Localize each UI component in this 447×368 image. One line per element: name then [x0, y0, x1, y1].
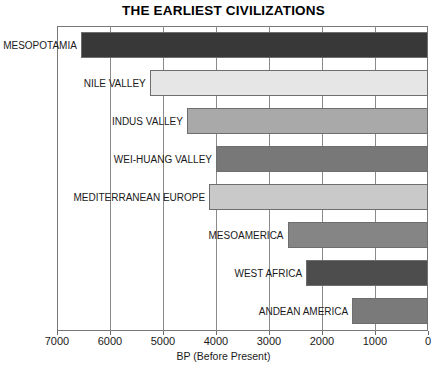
bar-label-andean-america: ANDEAN AMERICA [0, 306, 348, 317]
bar-indus-valley [187, 108, 428, 134]
x-tick-label-7000: 7000 [27, 335, 87, 347]
bar-label-mediterranean-europe: MEDITERRANEAN EUROPE [0, 192, 205, 203]
chart-container: THE EARLIEST CIVILIZATIONS 7000600050004… [0, 0, 447, 368]
bar-label-mesoamerica: MESOAMERICA [0, 230, 284, 241]
bar-west-africa [306, 260, 428, 286]
gridline-6000 [110, 26, 111, 331]
plot-frame-bottom-border [57, 330, 428, 331]
bar-label-mesopotamia: MESOPOTAMIA [0, 40, 77, 51]
x-tick-label-2000: 2000 [292, 335, 352, 347]
bar-mesopotamia [81, 32, 428, 58]
bar-nile-valley [150, 70, 428, 96]
x-tick-label-6000: 6000 [80, 335, 140, 347]
bar-andean-america [352, 298, 428, 324]
bar-label-nile-valley: NILE VALLEY [0, 78, 146, 89]
bar-label-west-africa: WEST AFRICA [0, 268, 302, 279]
bar-mesoamerica [288, 222, 428, 248]
x-tick-label-1000: 1000 [345, 335, 405, 347]
x-tick-label-4000: 4000 [186, 335, 246, 347]
x-tick-label-0: 0 [398, 335, 447, 347]
bar-label-indus-valley: INDUS VALLEY [0, 116, 183, 127]
x-tick-label-5000: 5000 [133, 335, 193, 347]
x-tick-label-3000: 3000 [239, 335, 299, 347]
bar-mediterranean-europe [209, 184, 428, 210]
bar-wei-huang-valley [216, 146, 428, 172]
x-axis-label: BP (Before Present) [0, 350, 447, 362]
chart-title: THE EARLIEST CIVILIZATIONS [0, 3, 447, 18]
bar-label-wei-huang-valley: WEI-HUANG VALLEY [0, 154, 212, 165]
